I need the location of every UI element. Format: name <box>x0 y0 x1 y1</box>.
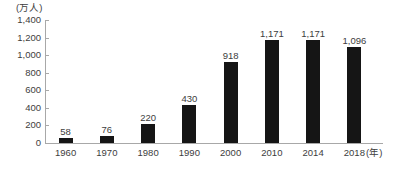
x-axis-tick-label: 2000 <box>210 147 251 158</box>
bar <box>141 124 155 143</box>
y-axis-tick-label: 400 <box>25 103 41 113</box>
bar <box>182 105 196 143</box>
bar-group: 1,096 <box>334 20 375 143</box>
bar <box>100 136 114 143</box>
x-axis-tick-label: 1960 <box>45 147 86 158</box>
bar-group: 1,171 <box>251 20 292 143</box>
y-axis-tick-labels: 02004006008001,0001,2001,400 <box>0 0 41 178</box>
y-axis-tick-label: 1,200 <box>17 33 41 43</box>
plot-area: 58762204309181,1711,1711,096 <box>45 20 375 143</box>
bar-value-label: 430 <box>181 93 197 104</box>
x-axis-tick-label: 2014 <box>293 147 334 158</box>
y-axis-tick-label: 200 <box>25 120 41 130</box>
y-axis-tick-label: 1,000 <box>17 50 41 60</box>
x-axis-tick-label: 1990 <box>169 147 210 158</box>
bar-group: 76 <box>86 20 127 143</box>
bar-group: 918 <box>210 20 251 143</box>
y-axis-tick-label: 600 <box>25 85 41 95</box>
x-axis-tick-label: 1980 <box>128 147 169 158</box>
bar-value-label: 1,096 <box>342 35 366 46</box>
bar-group: 58 <box>45 20 86 143</box>
bar <box>265 40 279 143</box>
bar-value-label: 220 <box>140 112 156 123</box>
x-axis-unit-label: (年) <box>366 147 382 158</box>
y-axis-tick-label: 0 <box>36 138 41 148</box>
bar <box>224 62 238 143</box>
bar <box>59 138 73 143</box>
bar-value-label: 1,171 <box>260 28 284 39</box>
x-axis-line <box>45 143 383 144</box>
bar-group: 430 <box>169 20 210 143</box>
bar <box>306 40 320 143</box>
y-axis-tick-label: 1,400 <box>17 15 41 25</box>
x-axis-tick-label: 2010 <box>251 147 292 158</box>
x-axis-tick-label: 1970 <box>86 147 127 158</box>
y-axis-tick-mark <box>45 143 49 144</box>
bar-chart: (万人) 02004006008001,0001,2001,400 587622… <box>0 0 393 178</box>
bar <box>347 47 361 143</box>
bar-value-label: 1,171 <box>301 28 325 39</box>
bar-group: 220 <box>128 20 169 143</box>
y-axis-tick-label: 800 <box>25 68 41 78</box>
bar-value-label: 76 <box>102 124 113 135</box>
bar-group: 1,171 <box>293 20 334 143</box>
bar-value-label: 918 <box>223 50 239 61</box>
bar-value-label: 58 <box>60 126 71 137</box>
